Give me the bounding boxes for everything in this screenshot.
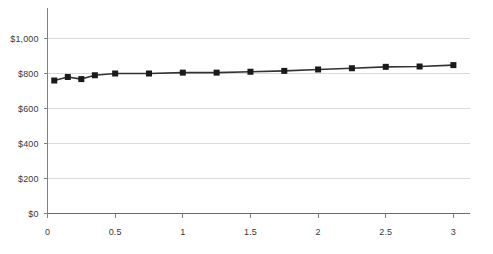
x-tick-label-3: 3: [433, 227, 473, 237]
y-tick-label-1000: $1,000: [0, 34, 39, 44]
data-point-marker: [247, 69, 253, 75]
x-tick-label-2_5: 2.5: [366, 227, 406, 237]
y-tick-marks-group: [44, 39, 48, 214]
data-point-marker: [51, 78, 57, 84]
gridlines-group: [48, 39, 471, 179]
y-tick-label-600: $600: [0, 104, 39, 114]
y-tick-label-0: $0: [0, 209, 39, 219]
x-tick-label-0: 0: [28, 227, 68, 237]
data-point-marker: [417, 64, 423, 70]
data-point-marker: [180, 70, 186, 76]
x-tick-label-0_5: 0.5: [95, 227, 135, 237]
data-point-marker: [112, 71, 118, 77]
x-tick-label-2: 2: [298, 227, 338, 237]
data-point-marker: [450, 62, 456, 68]
data-point-marker: [92, 72, 98, 78]
data-point-marker: [65, 74, 71, 80]
data-point-marker: [281, 68, 287, 74]
series-marker-group: [51, 62, 456, 83]
y-tick-label-800: $800: [0, 69, 39, 79]
data-point-marker: [349, 65, 355, 71]
y-tick-label-200: $200: [0, 174, 39, 184]
x-tick-label-1: 1: [163, 227, 203, 237]
chart-canvas: [0, 0, 493, 254]
data-point-marker: [315, 66, 321, 72]
data-point-marker: [78, 76, 84, 82]
x-tick-marks-group: [48, 214, 454, 218]
data-point-marker: [146, 71, 152, 77]
x-tick-label-1_5: 1.5: [230, 227, 270, 237]
y-tick-label-400: $400: [0, 139, 39, 149]
line-chart: $0$200$400$600$800$1,000 00.511.522.53: [0, 0, 493, 254]
data-point-marker: [383, 64, 389, 70]
data-point-marker: [214, 70, 220, 76]
